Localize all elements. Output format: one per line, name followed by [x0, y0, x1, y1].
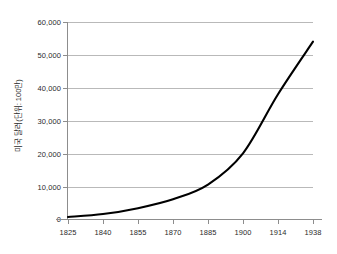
chart-title — [160, 0, 335, 5]
x-tick-label-1914: 1914 — [263, 228, 293, 237]
gridline-40000 — [68, 88, 313, 89]
y-axis-line — [67, 22, 68, 220]
x-tick-label-1885: 1885 — [193, 228, 223, 237]
x-tick-mark-1885 — [208, 220, 209, 224]
plot-area — [68, 22, 313, 219]
y-tick-label-60000: 60,000 — [37, 18, 61, 27]
y-tick-label-20000: 20,000 — [37, 150, 61, 159]
gridline-10000 — [68, 187, 313, 188]
y-tick-label-30000: 30,000 — [37, 117, 61, 126]
y-axis-tick-labels: 60,000 50,000 40,000 30,000 20,000 10,00… — [0, 0, 61, 254]
y-tick-label-10000: 10,000 — [37, 183, 61, 192]
x-tick-mark-1914 — [278, 220, 279, 224]
x-tick-label-1855: 1855 — [123, 228, 153, 237]
x-tick-label-1825: 1825 — [53, 228, 83, 237]
gridline-50000 — [68, 55, 313, 56]
gridline-30000 — [68, 121, 313, 122]
y-tick-label-40000: 40,000 — [37, 84, 61, 93]
gridline-60000 — [68, 22, 313, 23]
x-tick-mark-1900 — [243, 220, 244, 224]
x-axis-line — [56, 219, 322, 220]
chart-container: 미국 달러(단위: 100만) 60,000 50,000 40,000 30,… — [0, 0, 337, 254]
x-tick-mark-1870 — [173, 220, 174, 224]
x-tick-mark-1840 — [103, 220, 104, 224]
y-tick-label-50000: 50,000 — [37, 51, 61, 60]
gridline-20000 — [68, 154, 313, 155]
x-tick-mark-1938 — [313, 220, 314, 224]
x-tick-mark-1855 — [138, 220, 139, 224]
x-tick-label-1840: 1840 — [88, 228, 118, 237]
x-tick-mark-1825 — [68, 220, 69, 224]
x-tick-label-1938: 1938 — [298, 228, 328, 237]
x-tick-label-1900: 1900 — [228, 228, 258, 237]
x-tick-label-1870: 1870 — [158, 228, 188, 237]
